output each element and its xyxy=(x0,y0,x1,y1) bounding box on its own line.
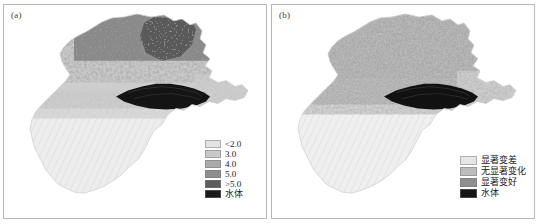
legend-swatch xyxy=(460,189,477,198)
legend-label: 水体 xyxy=(481,189,499,198)
legend-label: 无显著变化 xyxy=(481,167,526,176)
legend-label: 显著变差 xyxy=(481,156,517,165)
legend-item: 5.0 xyxy=(205,169,243,179)
legend-label: 4.0 xyxy=(225,160,236,169)
legend-swatch xyxy=(205,180,221,188)
legend-swatch xyxy=(460,156,477,165)
panel-b-legend: 显著变差 无显著变化 显著变好 水体 xyxy=(460,155,526,199)
legend-swatch xyxy=(205,190,221,198)
legend-item: 4.0 xyxy=(205,159,243,169)
legend-label: 水体 xyxy=(225,190,243,199)
legend-item: 水体 xyxy=(205,189,243,199)
legend-swatch xyxy=(205,150,221,158)
legend-label: 5.0 xyxy=(225,170,236,179)
legend-item: <2.0 xyxy=(205,139,243,149)
legend-item: 无显著变化 xyxy=(460,166,526,177)
legend-label: <2.0 xyxy=(225,140,241,149)
legend-item: 显著变好 xyxy=(460,177,526,188)
legend-label: 3.0 xyxy=(225,150,236,159)
legend-item: 3.0 xyxy=(205,149,243,159)
legend-label: >5.0 xyxy=(225,180,241,189)
panel-a-legend: <2.0 3.0 4.0 5.0 >5.0 水体 xyxy=(205,139,243,199)
panel-b: (b) xyxy=(271,4,535,219)
panel-a: (a) xyxy=(3,4,267,219)
panel-a-label: (a) xyxy=(11,10,22,20)
legend-swatch xyxy=(205,140,221,148)
figure-container: (a) xyxy=(0,0,538,224)
legend-swatch xyxy=(460,178,477,187)
legend-item: >5.0 xyxy=(205,179,243,189)
panel-b-label: (b) xyxy=(279,10,290,20)
legend-item: 水体 xyxy=(460,188,526,199)
legend-label: 显著变好 xyxy=(481,178,517,187)
legend-swatch xyxy=(205,170,221,178)
legend-swatch xyxy=(205,160,221,168)
legend-item: 显著变差 xyxy=(460,155,526,166)
legend-swatch xyxy=(460,167,477,176)
